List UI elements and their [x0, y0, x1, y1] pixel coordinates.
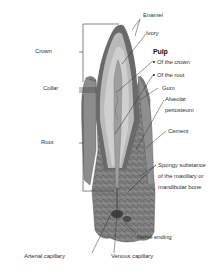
label-collar: Collar: [43, 85, 58, 92]
tooth-diagram: Crown Collar Root Enamel Ivory Pulp Of t…: [0, 0, 222, 277]
gum-left: [82, 78, 97, 185]
label-pulp-crown: Of the crown: [157, 59, 190, 66]
label-periosteum: periosteum: [165, 107, 194, 114]
label-spongy-2: of the maxillary or: [158, 173, 203, 180]
label-root: Root: [41, 139, 53, 146]
label-spongy-3: mandibular bone: [158, 184, 201, 191]
label-enamel: Enamel: [143, 12, 163, 19]
label-pulp-root: Of the root: [157, 72, 184, 79]
label-gum: Gum: [162, 85, 175, 92]
label-alveolar: Alveolar: [165, 96, 186, 103]
label-arterial-capillary: Arterial capillary: [24, 253, 65, 260]
pulp-crown-bullet: [153, 61, 155, 63]
pulp-root-bullet: [153, 74, 155, 76]
label-pulp: Pulp: [153, 48, 168, 55]
label-nerve-ending: Nerve ending: [137, 234, 172, 241]
tooth-illustration: [0, 0, 222, 277]
label-spongy-1: Spongy substance: [158, 162, 206, 169]
label-cement: Cement: [168, 128, 188, 135]
label-ivory: Ivory: [146, 30, 159, 37]
label-venous-capillary: Venous capillary: [111, 253, 153, 260]
label-crown: Crown: [35, 48, 52, 55]
